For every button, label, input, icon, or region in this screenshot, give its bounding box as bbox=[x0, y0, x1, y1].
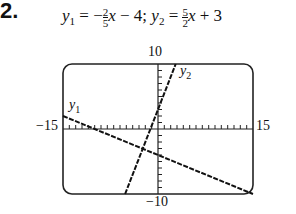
graph-screen bbox=[0, 0, 296, 214]
